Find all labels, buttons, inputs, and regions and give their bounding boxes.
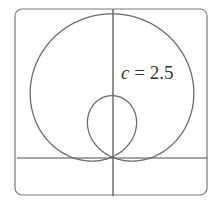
- limacon-curve: [30, 14, 194, 161]
- curve-label: c = 2.5: [121, 62, 173, 84]
- curve-label-value: = 2.5: [129, 62, 173, 83]
- plot-frame: [15, 9, 207, 195]
- limacon-plot: [0, 0, 223, 210]
